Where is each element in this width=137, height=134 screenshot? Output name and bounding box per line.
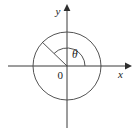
- x-axis-label: x: [117, 68, 123, 80]
- math-figure: y x 0 θ: [0, 0, 137, 134]
- angle-arc: [54, 48, 85, 66]
- angle-theta-label: θ: [72, 48, 78, 60]
- origin-label: 0: [58, 69, 64, 81]
- coordinate-diagram-svg: y x 0 θ: [0, 0, 137, 134]
- terminal-ray-line: [43, 42, 68, 66]
- y-axis-arrowhead: [64, 4, 71, 11]
- y-axis-label: y: [55, 5, 61, 17]
- x-axis-arrowhead: [125, 63, 132, 70]
